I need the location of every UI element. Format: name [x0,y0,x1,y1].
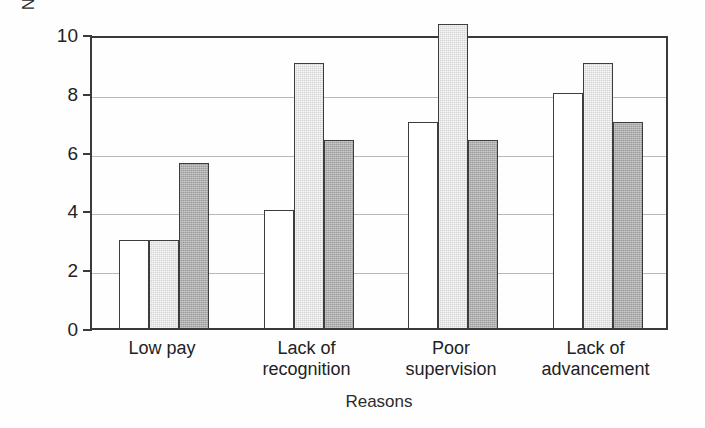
y-axis-tick-label: 4 [67,201,78,223]
bar-white-group-1 [119,240,149,328]
bar-light-gray-group-1 [149,240,179,328]
bar-dark-gray-group-1 [179,163,209,328]
bar-light-gray-group-2 [294,63,324,328]
y-axis-tick-label: 2 [67,260,78,282]
bar-dark-gray-group-4 [613,122,643,328]
y-axis-tick-mark [83,35,92,37]
bar-chart-figure: Number of Occurrences 0246810 Low payLac… [0,0,705,428]
y-axis-tick-mark [83,153,92,155]
bar-white-group-2 [264,210,294,328]
y-axis-tick-mark [83,329,92,331]
y-axis-title: Number of Occurrences [14,0,44,66]
bar-white-group-3 [408,122,438,328]
plot-inner [92,38,666,328]
x-axis-title: Reasons [90,392,668,412]
bar-dark-gray-group-3 [468,140,498,328]
y-axis-tick-mark [83,211,92,213]
y-axis-tick-mark [83,270,92,272]
bar-light-gray-group-3 [438,24,468,328]
x-axis-label-group-4: Lack of advancement [506,338,686,380]
bar-light-gray-group-4 [583,63,613,328]
y-axis-tick-mark [83,94,92,96]
y-axis-tick-label: 10 [57,25,78,47]
bar-dark-gray-group-2 [324,140,354,328]
y-axis-tick-label: 6 [67,143,78,165]
plot-area [90,36,668,330]
y-axis-tick-label: 8 [67,84,78,106]
bar-white-group-4 [553,93,583,328]
